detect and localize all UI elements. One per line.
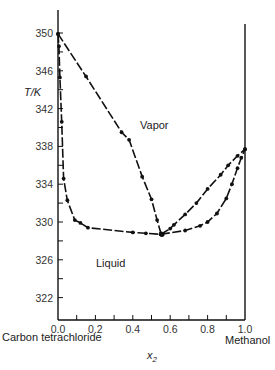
- y-tick-label: 338: [35, 140, 53, 152]
- y-tick-label: 334: [35, 178, 53, 190]
- data-point: [183, 229, 187, 233]
- data-point: [198, 224, 202, 228]
- data-point: [73, 218, 77, 222]
- data-point: [172, 223, 176, 227]
- y-tick-label: 350: [35, 27, 53, 39]
- y-tick-label: 322: [35, 292, 53, 304]
- data-point: [79, 221, 83, 225]
- liquid-label: Liquid: [96, 257, 125, 269]
- vapor-label: Vapor: [140, 119, 169, 131]
- phase-curve: [161, 149, 245, 234]
- data-point: [140, 175, 144, 179]
- phase-diagram: 322326330334338342346350 0.00.20.40.60.8…: [0, 0, 275, 370]
- data-point: [155, 218, 159, 222]
- data-point: [243, 147, 247, 151]
- x-axis-title: x2: [146, 349, 158, 364]
- data-point: [183, 213, 187, 217]
- x-tick-label: 0.4: [125, 323, 140, 335]
- data-point: [131, 230, 135, 234]
- data-point: [226, 163, 230, 167]
- data-point: [236, 166, 240, 170]
- data-point: [230, 182, 234, 186]
- data-point: [120, 130, 124, 134]
- y-tick-label: 330: [35, 216, 53, 228]
- x-tick-label: 0.6: [163, 323, 178, 335]
- data-point: [236, 154, 240, 158]
- phase-curves: [56, 32, 247, 237]
- data-point: [215, 212, 219, 216]
- data-point: [57, 44, 61, 48]
- data-point: [206, 187, 210, 191]
- data-point: [60, 120, 64, 124]
- data-point: [62, 177, 66, 181]
- y-tick-label: 346: [35, 65, 53, 77]
- y-tick-label: 326: [35, 254, 53, 266]
- data-point: [56, 32, 60, 36]
- data-point: [65, 198, 69, 202]
- data-point: [86, 226, 90, 230]
- x-tick-label: 0.8: [200, 323, 215, 335]
- y-tick-label: 342: [35, 103, 53, 115]
- phase-curve: [58, 34, 161, 233]
- phase-curve: [58, 34, 161, 234]
- data-point: [84, 75, 88, 79]
- data-point: [194, 201, 198, 205]
- phase-curve: [161, 149, 245, 234]
- data-point: [224, 196, 228, 200]
- data-point: [127, 138, 131, 142]
- data-point: [239, 156, 243, 160]
- data-point: [168, 227, 172, 231]
- data-point: [219, 173, 223, 177]
- right-component-label: Methanol: [225, 334, 270, 346]
- y-axis-title: T/K: [24, 86, 42, 98]
- azeotrope-point: [159, 232, 164, 237]
- data-point: [206, 220, 210, 224]
- data-point: [58, 76, 62, 80]
- data-point: [150, 197, 154, 201]
- data-point: [144, 231, 148, 235]
- left-component-label: Carbon tetrachloride: [2, 331, 102, 343]
